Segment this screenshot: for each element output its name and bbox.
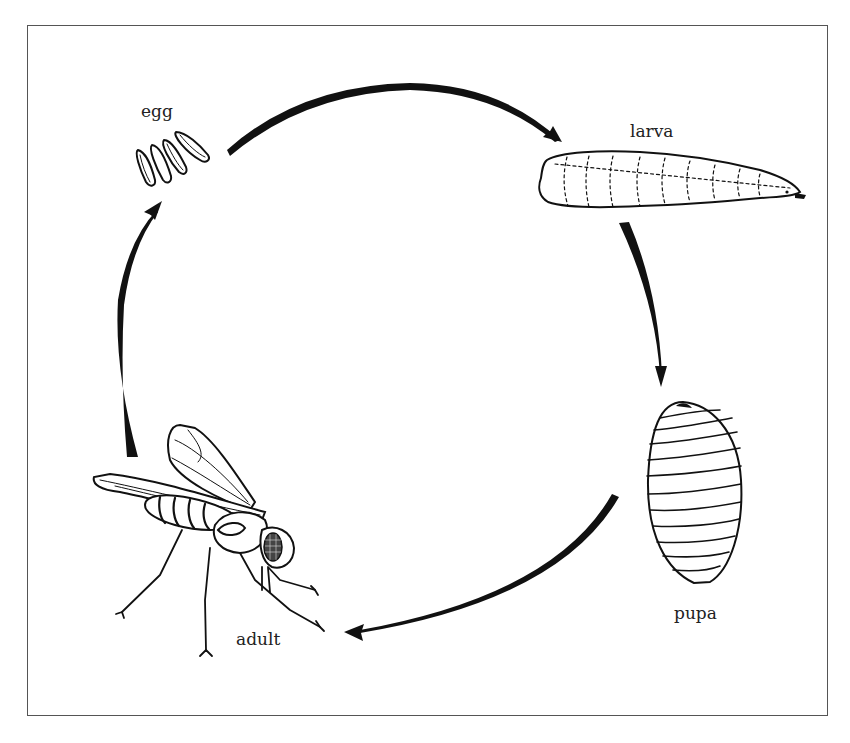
pupa-illustration	[647, 402, 741, 583]
arrow-larva-to-pupa	[619, 222, 667, 387]
adult-fly-illustration	[94, 425, 324, 656]
life-cycle-diagram	[0, 0, 850, 743]
arrow-pupa-to-adult	[344, 494, 619, 641]
arrow-egg-to-larva	[227, 83, 562, 156]
stage-label-pupa: pupa	[674, 605, 717, 622]
larva-illustration	[539, 151, 806, 207]
egg-illustration	[137, 132, 209, 186]
stage-label-egg: egg	[141, 103, 173, 120]
arrow-adult-to-egg	[117, 201, 162, 457]
stage-label-larva: larva	[630, 123, 673, 140]
stage-label-adult: adult	[236, 631, 280, 648]
